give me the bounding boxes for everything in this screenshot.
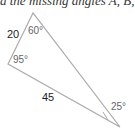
- angle-label-bottom-right: 25°: [111, 101, 126, 112]
- triangle-shape: [8, 13, 120, 127]
- triangle-diagram: 20 45 60° 95° 25°: [0, 0, 135, 132]
- angle-label-left: 95°: [13, 54, 28, 65]
- side-label-20: 20: [7, 28, 19, 40]
- side-label-45: 45: [42, 91, 54, 103]
- angle-label-top: 60°: [28, 25, 43, 36]
